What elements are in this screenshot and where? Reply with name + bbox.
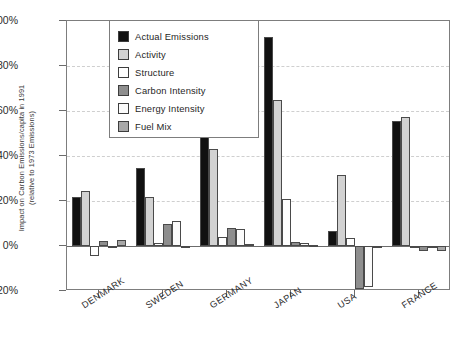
legend: Actual EmissionsActivityStructureCarbon …: [109, 20, 259, 138]
bar: [181, 246, 190, 248]
bar: [346, 238, 355, 246]
bar: [428, 246, 437, 248]
y-axis-tick-mark: [59, 155, 66, 156]
y-axis-title-container: Impact on Carbon Emissions/capita in 199…: [0, 0, 30, 355]
legend-item-label: Carbon Intensity: [135, 85, 206, 96]
legend-item: Actual Emissions: [118, 27, 258, 45]
bar: [218, 237, 227, 246]
y-axis-title: Impact on Carbon Emissions/capita in 199…: [17, 43, 37, 273]
bar: [136, 168, 145, 246]
bar: [328, 231, 337, 246]
bar: [154, 243, 163, 246]
bar: [81, 191, 90, 246]
bar: [337, 175, 346, 246]
legend-swatch-activity: [118, 49, 129, 60]
y-axis-tick-mark: [59, 245, 66, 246]
legend-item-label: Fuel Mix: [135, 121, 172, 132]
bar: [117, 240, 126, 246]
legend-swatch-energy-intensity: [118, 103, 129, 114]
bar: [282, 199, 291, 246]
x-axis-category-label: USA: [336, 291, 358, 310]
y-axis-tick-mark: [59, 20, 66, 21]
bar: [227, 228, 236, 246]
legend-item: Activity: [118, 45, 258, 63]
y-axis-tick-label: 40%: [0, 149, 18, 161]
zero-line: [67, 246, 449, 247]
legend-swatch-fuel-mix: [118, 121, 129, 132]
y-axis-tick-label: 0%: [0, 239, 18, 251]
legend-item: Carbon Intensity: [118, 81, 258, 99]
legend-swatch-structure: [118, 67, 129, 78]
legend-swatch-actual-emissions: [118, 31, 129, 42]
bar: [245, 244, 254, 246]
bar: [145, 197, 154, 247]
y-axis-tick-label: -20%: [0, 284, 18, 296]
y-axis-tick-label: 100%: [0, 14, 18, 26]
y-axis-tick-mark: [59, 65, 66, 66]
y-axis-tick-mark: [59, 110, 66, 111]
y-axis-tick-label: 80%: [0, 59, 18, 71]
bar: [163, 224, 172, 247]
legend-item: Structure: [118, 63, 258, 81]
bar: [410, 246, 419, 248]
bar: [236, 229, 245, 246]
bar: [90, 246, 99, 256]
y-axis-tick-mark: [59, 200, 66, 201]
bar: [373, 246, 382, 248]
legend-swatch-carbon-intensity: [118, 85, 129, 96]
bar: [392, 121, 401, 246]
y-axis-tick-mark: [59, 290, 66, 291]
bar: [419, 246, 428, 251]
bar: [72, 197, 81, 247]
legend-item-label: Structure: [135, 67, 174, 78]
bar: [273, 100, 282, 246]
legend-item-label: Actual Emissions: [135, 31, 209, 42]
bar: [364, 246, 373, 287]
bar: [309, 245, 318, 247]
y-axis-tick-label: 20%: [0, 194, 18, 206]
bar: [99, 241, 108, 246]
y-axis-tick-label: 60%: [0, 104, 18, 116]
bar: [209, 149, 218, 246]
chart-root: Impact on Carbon Emissions/capita in 199…: [0, 0, 470, 355]
bar: [108, 246, 117, 248]
bar: [401, 117, 410, 246]
legend-item-label: Energy Intensity: [135, 103, 205, 114]
legend-item: Energy Intensity: [118, 99, 258, 117]
bar: [355, 246, 364, 289]
legend-item-label: Activity: [135, 49, 166, 60]
bar: [291, 242, 300, 247]
bar: [172, 221, 181, 246]
bar: [437, 246, 446, 251]
bar: [300, 243, 309, 246]
legend-item: Fuel Mix: [118, 117, 258, 135]
bar: [264, 37, 273, 246]
